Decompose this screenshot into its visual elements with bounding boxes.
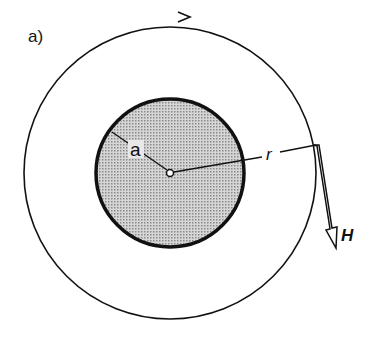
radius-r-label: r xyxy=(266,145,273,164)
h-field-arrow-icon xyxy=(314,145,337,248)
radius-r-line-outer xyxy=(280,145,316,152)
panel-label: a) xyxy=(28,27,43,46)
h-field-label: H xyxy=(341,226,354,245)
circulation-arrow-icon xyxy=(178,12,190,22)
diagram-canvas: a) a r H xyxy=(0,0,379,339)
center-point xyxy=(167,170,174,177)
radius-a-label: a xyxy=(130,139,141,160)
